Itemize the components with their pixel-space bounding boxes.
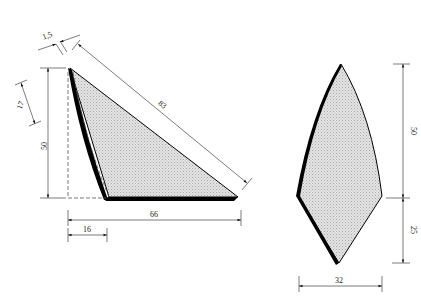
- triangle-fill: [70, 68, 238, 197]
- dim-hypotenuse: 83: [156, 99, 168, 111]
- dim-base-width: 66: [150, 210, 158, 219]
- dim-lower-height: 25: [409, 226, 418, 234]
- right-figure: [296, 64, 382, 265]
- pointed-profile-fill: [298, 64, 382, 263]
- dim-upper-segment: 17: [15, 100, 26, 111]
- technical-drawing: 1,5 83 50 17 66 16: [0, 0, 421, 308]
- left-figure: [68, 68, 238, 201]
- dim-width: 32: [335, 276, 343, 285]
- dim-thickness: 1,5: [41, 30, 53, 42]
- dim-base-offset: 16: [83, 225, 91, 234]
- dim-upper-height: 50: [409, 127, 418, 135]
- drawing-canvas: 1,5 83 50 17 66 16: [0, 0, 421, 308]
- dim-height: 50: [40, 142, 49, 150]
- triangle-thick-base: [104, 197, 238, 201]
